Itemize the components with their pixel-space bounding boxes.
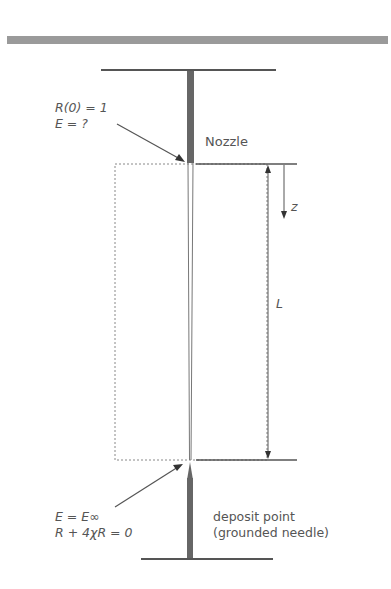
z-arrowhead [281,211,287,219]
bottom-condition-e: E = E∞ [55,509,100,524]
top-condition-r: R(0) = 1 [55,100,108,115]
grounded-needle-bar [187,478,193,558]
length-arrowhead-bottom [265,451,271,459]
bottom-pointer-arrowhead [173,464,183,471]
deposit-point-label: deposit point [213,509,295,524]
jet-line-left [188,163,190,460]
grounded-needle-label: (grounded needle) [213,525,329,540]
length-arrowhead-top [265,165,271,173]
bottom-condition-r: R + 4χR = 0 [55,525,133,540]
top-condition-e: E = ? [55,116,88,131]
electrospinning-diagram [0,0,391,589]
top-pointer-arrow [117,124,180,159]
top-band [7,36,388,44]
z-axis-label: z [291,199,298,214]
bottom-pointer-arrow [115,467,178,507]
top-pointer-arrowhead [175,154,185,162]
jet-line-right [191,163,193,460]
grounded-needle-tip [187,462,193,480]
length-label: L [276,296,283,311]
nozzle-bar [187,71,194,163]
nozzle-label: Nozzle [205,134,248,149]
